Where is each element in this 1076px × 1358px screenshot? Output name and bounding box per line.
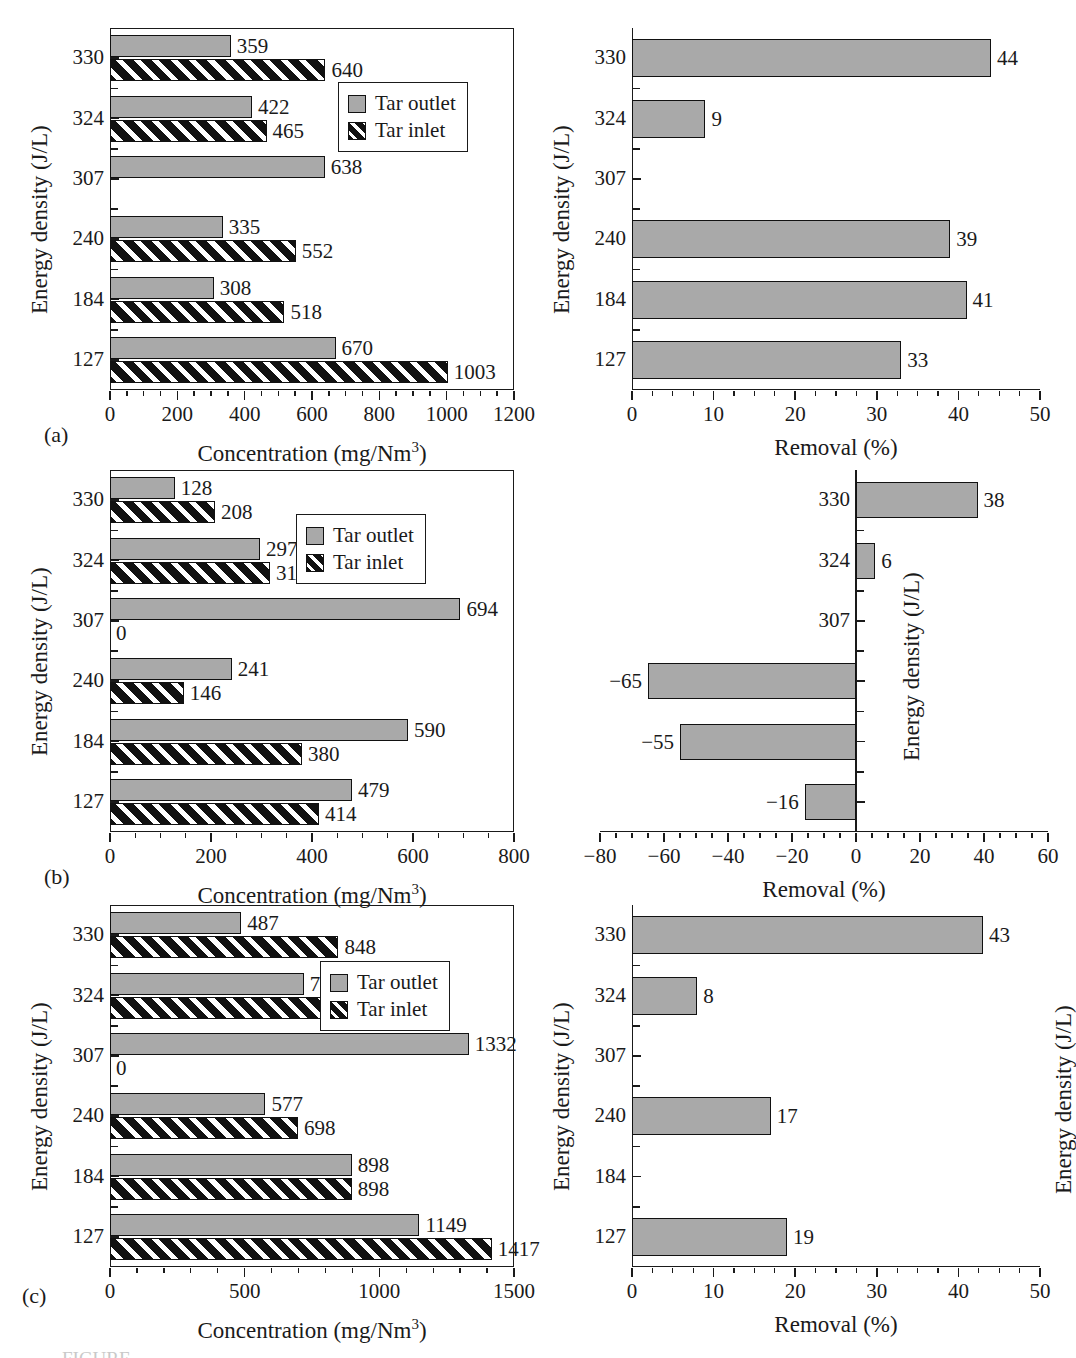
c-right-bar-removal-330 [632, 916, 983, 954]
c-right-x-tick [897, 1268, 898, 1273]
c-right-x-tick [999, 1268, 1000, 1273]
b-right-bar-removal-330 [856, 482, 978, 518]
b-right-x-tick-label: 40 [974, 846, 995, 867]
a-right-x-tick [652, 391, 653, 396]
a-right-bar-removal-324 [632, 100, 705, 138]
b-right-x-tick [599, 833, 601, 842]
b-right-plot-frame [600, 470, 1048, 832]
a-right-category-label: 184 [566, 289, 626, 310]
c-right-value-label: 17 [777, 1106, 798, 1127]
a-right-x-tick [856, 391, 857, 396]
c-right-value-label: 19 [793, 1227, 814, 1248]
a-right-x-tick-label: 40 [948, 404, 969, 425]
c-right-bar-removal-240 [632, 1097, 771, 1135]
c-right-x-tick [917, 1268, 918, 1273]
b-right-x-tick [903, 833, 904, 838]
b-right-category-label: 330 [794, 489, 850, 510]
c-right-x-tick [978, 1268, 979, 1273]
c-right-x-tick-label: 40 [948, 1281, 969, 1302]
b-right-value-label: −55 [641, 732, 674, 753]
c-right-x-tick [672, 1268, 673, 1273]
a-right-x-tick [1039, 391, 1041, 400]
a-right-x-tick [754, 391, 755, 396]
b-right-x-tick [823, 833, 824, 838]
a-right-value-label: 44 [997, 48, 1018, 69]
c-right-x-tick [693, 1268, 694, 1273]
c-right-x-tick [815, 1268, 816, 1273]
a-right-x-tick [937, 391, 938, 396]
c-right-y-axis-title: Energy density (J/L) [550, 1002, 573, 1191]
a-right-x-tick [917, 391, 918, 396]
panel-c: 0500100015003303243072401841274877191332… [0, 877, 1076, 1327]
b-right-x-tick [807, 833, 808, 838]
c-right-category-label: 184 [566, 1166, 626, 1187]
panel-letter-c: (c) [22, 1285, 46, 1307]
a-right-x-tick [978, 391, 979, 396]
c-right-outer-y-axis-title: Energy density (J/L) [1052, 1005, 1075, 1194]
b-right-value-label: 6 [881, 551, 892, 572]
c-right-value-label: 43 [989, 925, 1010, 946]
a-right-bar-removal-184 [632, 281, 967, 319]
b-right-value-label: 38 [984, 490, 1005, 511]
c-right-x-tick [835, 1268, 836, 1273]
a-right-x-tick [958, 391, 960, 400]
b-right-x-tick [839, 833, 840, 838]
b-right-bar-removal-324 [856, 543, 875, 579]
a-right-y-minor-tick [633, 269, 640, 271]
b-right-x-tick [935, 833, 936, 838]
b-right-x-tick [727, 833, 729, 842]
b-right-x-tick [631, 833, 632, 838]
c-right-x-tick [652, 1268, 653, 1273]
a-right-x-tick-label: 0 [627, 404, 638, 425]
a-right-x-tick [631, 391, 633, 400]
c-right-category-label: 127 [566, 1226, 626, 1247]
b-right-x-tick [679, 833, 680, 838]
c-right-x-tick-label: 30 [866, 1281, 887, 1302]
a-right-x-tick-label: 30 [866, 404, 887, 425]
c-right-x-tick [713, 1268, 715, 1277]
c-right-x-tick-label: 20 [785, 1281, 806, 1302]
c-right-y-minor-tick [633, 1146, 640, 1148]
b-right-x-tick [775, 833, 776, 838]
b-right-x-tick [983, 833, 985, 842]
a-right-x-tick [815, 391, 816, 396]
c-right-value-label: 8 [703, 986, 714, 1007]
panel-a: 0200400600800100012003303243072401841273… [0, 0, 1076, 450]
c-right-x-tick [1019, 1268, 1020, 1273]
a-right-y-minor-tick [633, 329, 640, 331]
a-right-value-label: 41 [973, 290, 994, 311]
a-right-bar-removal-127 [632, 341, 901, 379]
c-right-y-tick [633, 1176, 641, 1178]
b-right-x-tick [871, 833, 872, 838]
a-right-x-tick-label: 50 [1030, 404, 1051, 425]
b-right-x-tick-label: −60 [648, 846, 681, 867]
a-right-y-minor-tick [633, 88, 640, 90]
b-right-x-tick [663, 833, 665, 842]
c-right-category-label: 324 [566, 985, 626, 1006]
c-right-x-tick [733, 1268, 734, 1273]
a-right-category-label: 324 [566, 108, 626, 129]
a-right-category-label: 307 [566, 168, 626, 189]
c-right-y-tick [633, 1055, 641, 1057]
a-right-x-tick [672, 391, 673, 396]
b-right-x-tick [1031, 833, 1032, 838]
b-right-x-tick [1047, 833, 1049, 842]
b-right-x-tick [615, 833, 616, 838]
b-right-x-tick-label: −80 [584, 846, 617, 867]
figure-caption-clipped: FIGURE [62, 1349, 131, 1358]
c-right-category-label: 240 [566, 1105, 626, 1126]
a-right-bar-removal-240 [632, 220, 950, 258]
a-right-x-tick [999, 391, 1000, 396]
c-right-x-tick [937, 1268, 938, 1273]
b-right-value-label: −16 [766, 792, 799, 813]
a-right-y-tick [633, 178, 641, 180]
b-right-x-tick [919, 833, 921, 842]
a-right-value-label: 9 [711, 109, 722, 130]
c-right-x-tick [876, 1268, 878, 1277]
c-right-x-tick [774, 1268, 775, 1273]
a-right-x-tick-label: 20 [785, 404, 806, 425]
b-right-x-tick [951, 833, 952, 838]
b-right-x-tick-label: −20 [776, 846, 809, 867]
a-right-x-tick [693, 391, 694, 396]
b-right-x-tick-label: 0 [851, 846, 862, 867]
